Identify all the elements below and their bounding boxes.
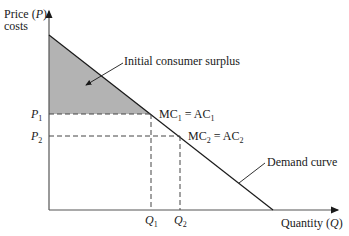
q2-label: Q2 xyxy=(174,213,187,229)
consumer-surplus-diagram: Price (P) costs P1 P2 Q1 Q2 Quantity (Q)… xyxy=(0,0,349,236)
q1-label: Q1 xyxy=(145,213,158,229)
demand-leader-line xyxy=(239,163,265,183)
y-axis-label-costs: costs xyxy=(4,19,28,33)
demand-curve-label: Demand curve xyxy=(267,155,337,169)
p2-label: P2 xyxy=(30,129,42,145)
mc1-ac1-label: MC1 = AC1 xyxy=(159,107,214,123)
consumer-surplus-label: Initial consumer surplus xyxy=(124,54,240,68)
p1-label: P1 xyxy=(30,107,42,123)
x-axis-label: Quantity (Q) xyxy=(281,216,343,230)
mc2-ac2-label: MC2 = AC2 xyxy=(188,129,243,145)
